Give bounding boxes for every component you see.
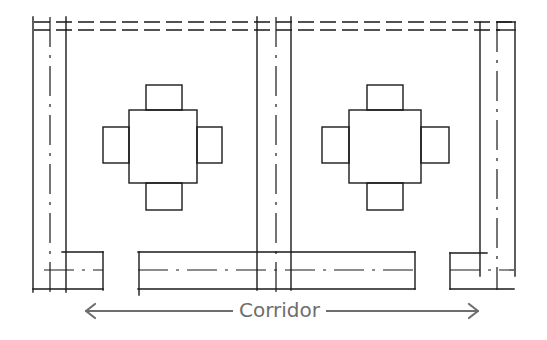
table-right (322, 85, 449, 210)
counter-right (450, 253, 514, 289)
overhead-beam-lines (34, 22, 515, 30)
right-wall (480, 22, 515, 290)
middle-wall (257, 17, 291, 292)
table-left (103, 85, 222, 210)
counter-center (138, 252, 418, 295)
corridor-label-wrap: Corridor (0, 298, 547, 322)
corridor-label: Corridor (233, 298, 326, 322)
floor-plan-drawing (0, 0, 547, 340)
counter-left (33, 252, 103, 290)
left-wall (33, 17, 66, 292)
